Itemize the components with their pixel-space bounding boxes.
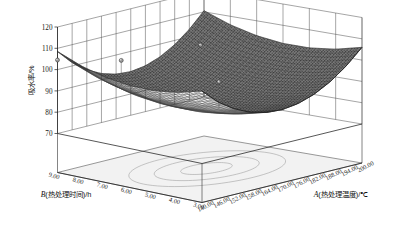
svg-text:120: 120 <box>42 24 53 32</box>
svg-text:B(热处理时间)/h: B(热处理时间)/h <box>41 190 92 199</box>
y-axis-title: B(热处理时间)/h <box>41 190 92 199</box>
svg-text:70: 70 <box>45 130 53 138</box>
svg-text:110: 110 <box>42 45 53 53</box>
z-axis-title: 吸水率/% <box>27 65 36 95</box>
x-axis-title: A(热处理温度)/℃ <box>313 190 369 199</box>
surface-plot-figure: 120110100908070 140.00146.00152.00158.00… <box>0 0 400 228</box>
svg-text:吸水率/%: 吸水率/% <box>27 65 36 95</box>
svg-text:100: 100 <box>42 66 53 74</box>
svg-text:80: 80 <box>45 109 53 117</box>
svg-text:90: 90 <box>45 88 53 96</box>
svg-text:A(热处理温度)/℃: A(热处理温度)/℃ <box>313 190 369 199</box>
